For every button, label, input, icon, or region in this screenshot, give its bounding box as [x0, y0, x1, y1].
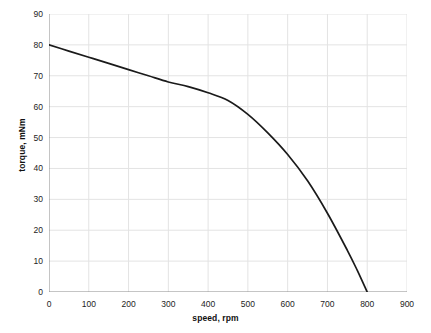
plot-svg	[49, 14, 407, 292]
plot-area	[49, 14, 407, 292]
x-tick-label: 900	[387, 299, 427, 309]
y-tick-label: 80	[13, 40, 43, 50]
x-axis-title: speed, rpm	[0, 313, 431, 323]
x-tick-label: 400	[188, 299, 228, 309]
axis-lines	[49, 14, 407, 292]
x-tick-label: 100	[69, 299, 109, 309]
x-tick-label: 500	[228, 299, 268, 309]
x-tick-label: 600	[268, 299, 308, 309]
x-tick-label: 200	[109, 299, 149, 309]
horizontal-gridlines	[49, 14, 407, 261]
torque-speed-chart: 0102030405060708090 01002003004005006007…	[0, 0, 431, 333]
y-tick-label: 20	[13, 225, 43, 235]
x-tick-label: 0	[29, 299, 69, 309]
tick-marks	[49, 14, 407, 292]
y-tick-label: 30	[13, 194, 43, 204]
y-tick-label: 90	[13, 9, 43, 19]
vertical-gridlines	[89, 14, 407, 292]
x-tick-label: 700	[307, 299, 347, 309]
x-tick-label: 800	[347, 299, 387, 309]
y-tick-label: 0	[13, 287, 43, 297]
y-tick-label: 70	[13, 71, 43, 81]
y-axis-title: torque, mNm	[17, 100, 27, 190]
x-tick-label: 300	[148, 299, 188, 309]
y-tick-label: 10	[13, 256, 43, 266]
